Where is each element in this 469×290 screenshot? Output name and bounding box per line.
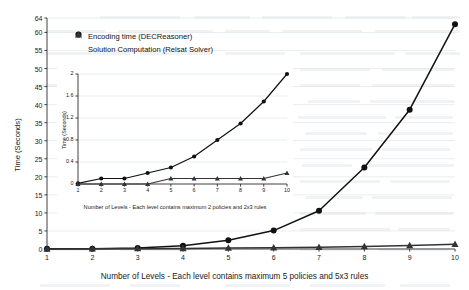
legend-entry-solution-computation: Solution Computation (Relsat Solver)	[74, 43, 213, 56]
x-axis-tick-label: 4	[146, 188, 149, 193]
circle-marker	[262, 99, 266, 103]
x-axis-tick-label: 1	[77, 188, 80, 193]
x-axis-tick-label: 7	[216, 188, 219, 193]
y-axis-tick-label: 5	[39, 227, 43, 234]
circle-marker	[215, 138, 219, 142]
legend-entry-encoding-time: Encoding time (DECReasoner)	[74, 30, 213, 43]
circle-marker	[271, 228, 277, 234]
x-axis-tick-label: 3	[136, 254, 140, 261]
x-axis-tick-label: 7	[317, 254, 321, 261]
y-axis-tick-label: 40	[35, 101, 43, 108]
x-axis-tick-label: 5	[226, 254, 230, 261]
legend-label-encoding-time: Encoding time (DECReasoner)	[88, 32, 192, 41]
y-axis-tick-label: 50	[35, 65, 43, 72]
y-axis-tick-label: 2	[71, 71, 74, 76]
y-axis-tick-label: 25	[35, 155, 43, 162]
y-axis-tick-label: 0.8	[66, 137, 74, 142]
x-axis-tick-label: 1	[45, 254, 49, 261]
y-axis-tick-label: 20	[35, 173, 43, 180]
series-line-1	[78, 74, 287, 183]
circle-marker	[122, 176, 126, 180]
y-axis-tick-label: 0	[71, 181, 74, 186]
circle-marker	[99, 176, 103, 180]
x-axis-tick-label: 8	[239, 188, 242, 193]
circle-marker	[192, 154, 196, 158]
circle-marker	[361, 164, 367, 170]
y-axis-tick-label: 1.6	[66, 93, 74, 98]
x-axis-tick-label: 5	[169, 188, 172, 193]
y-axis-tick-label: 35	[35, 119, 43, 126]
x-axis-tick-label: 2	[90, 254, 94, 261]
x-axis-tick-label: 2	[100, 188, 103, 193]
y-axis-tick-label: 45	[35, 83, 43, 90]
series-line-2	[47, 244, 455, 249]
x-axis-tick-label: 4	[181, 254, 185, 261]
y-axis-tick-label: 10	[35, 209, 43, 216]
x-axis-tick-label: 10	[284, 188, 290, 193]
x-axis-tick-label: 9	[408, 254, 412, 261]
circle-marker	[146, 171, 150, 175]
circle-marker	[225, 237, 231, 243]
circle-marker	[169, 165, 173, 169]
y-axis-tick-label: 15	[35, 191, 43, 198]
circle-marker	[238, 121, 242, 125]
circle-marker	[452, 21, 458, 27]
y-axis-tick-label: 1.2	[66, 115, 74, 120]
circle-marker	[316, 208, 322, 214]
y-axis-tick-label: 0.4	[66, 159, 74, 164]
circle-marker	[285, 72, 289, 76]
triangle-marker	[285, 170, 290, 175]
inset-chart-plot-area: Time (Seconds) Number of Levels - Each l…	[57, 68, 293, 220]
y-axis-tick-label: 30	[35, 137, 43, 144]
y-axis-tick-label: 0	[39, 246, 43, 253]
chart-legend: Encoding time (DECReasoner) Solution Com…	[74, 30, 213, 56]
legend-label-solution-computation: Solution Computation (Relsat Solver)	[88, 45, 213, 54]
inset-chart-canvas	[57, 68, 293, 220]
circle-marker	[407, 107, 413, 113]
chart-figure: Time (Seconds) Number of Levels - Each l…	[0, 0, 469, 290]
y-axis-tick-label: 60	[35, 29, 43, 36]
y-axis-tick-label: 64	[35, 15, 43, 22]
x-axis-tick-label: 10	[451, 254, 459, 261]
x-axis-tick-label: 6	[272, 254, 276, 261]
x-axis-tick-label: 3	[123, 188, 126, 193]
x-axis-tick-label: 6	[193, 188, 196, 193]
x-axis-tick-label: 8	[362, 254, 366, 261]
y-axis-tick-label: 55	[35, 47, 43, 54]
x-axis-tick-label: 9	[262, 188, 265, 193]
